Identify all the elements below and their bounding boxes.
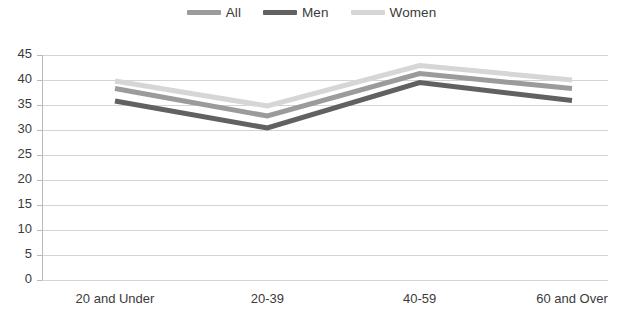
plot-svg: 051015202530354045 20 and Under20-3940-5… xyxy=(0,0,623,325)
x-tick-label: 40-59 xyxy=(403,291,436,306)
x-tick-label: 60 and Over xyxy=(536,291,608,306)
y-tick-labels-group: 051015202530354045 xyxy=(18,46,32,286)
axis-group xyxy=(37,55,43,281)
x-tick-label: 20 and Under xyxy=(76,291,155,306)
y-tick-label: 0 xyxy=(25,271,32,286)
plot-area: 051015202530354045 20 and Under20-3940-5… xyxy=(0,0,623,325)
y-tick-label: 25 xyxy=(18,146,32,161)
y-tick-label: 40 xyxy=(18,71,32,86)
y-tick-label: 45 xyxy=(18,46,32,61)
y-tick-label: 30 xyxy=(18,121,32,136)
x-tick-label: 20-39 xyxy=(251,291,284,306)
x-tick-labels-group: 20 and Under20-3940-5960 and Over xyxy=(76,291,609,306)
y-tick-label: 10 xyxy=(18,221,32,236)
series-group xyxy=(115,66,572,129)
line-chart: All Men Women 051015202530354045 20 and … xyxy=(0,0,623,325)
y-tick-label: 5 xyxy=(25,246,32,261)
y-tick-label: 35 xyxy=(18,96,32,111)
y-tick-label: 20 xyxy=(18,171,32,186)
y-tick-label: 15 xyxy=(18,196,32,211)
